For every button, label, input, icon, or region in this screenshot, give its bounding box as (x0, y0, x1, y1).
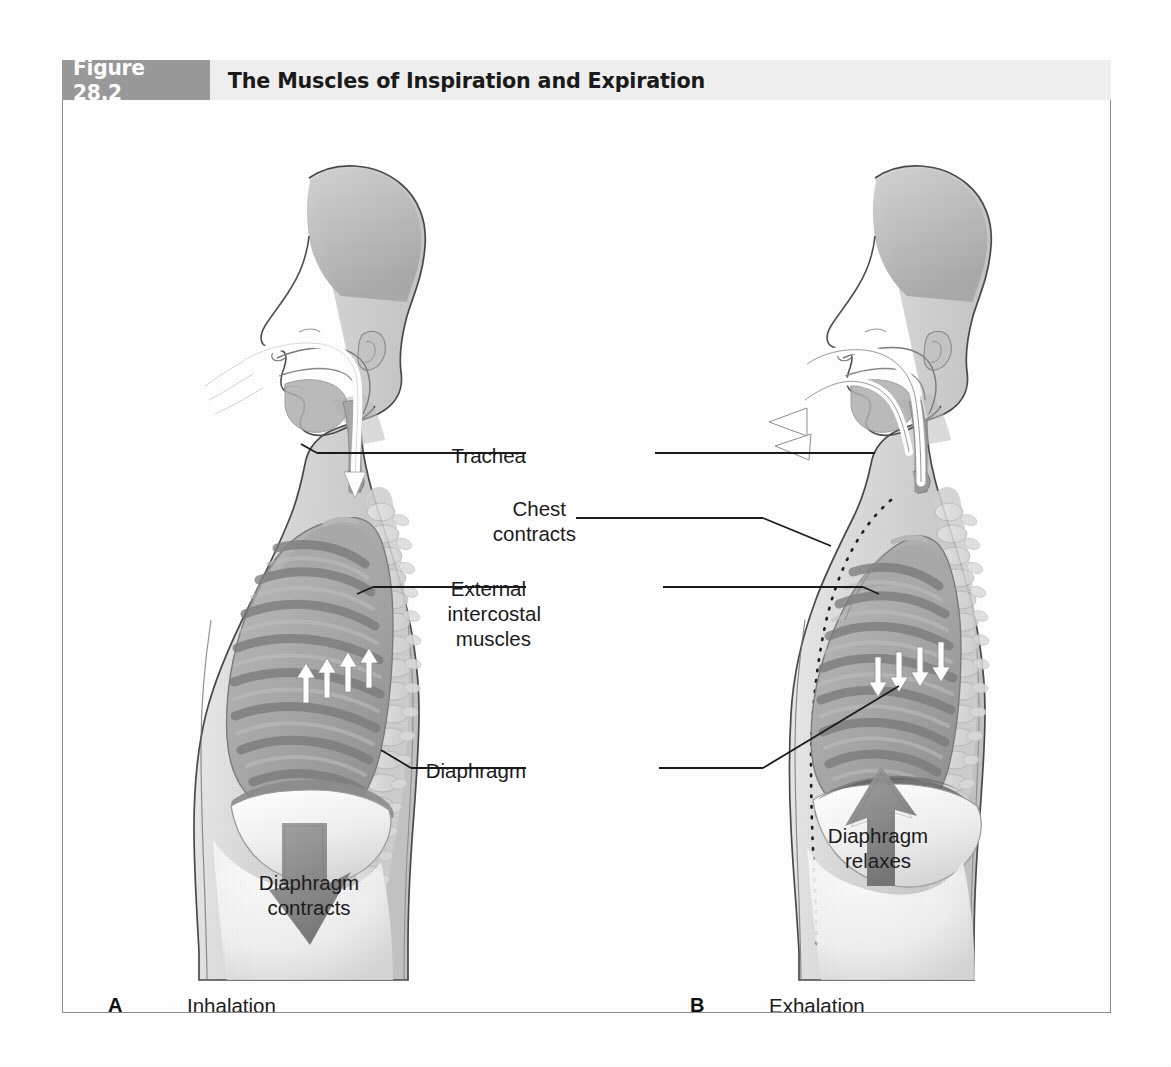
figure-header: Figure 28.2 The Muscles of Inspiration a… (62, 60, 1111, 100)
label-chest-contracts-line1: Chest (396, 496, 566, 521)
figure-title-box: The Muscles of Inspiration and Expiratio… (210, 60, 1111, 100)
label-external-intercostal-line1: External (366, 576, 526, 601)
figure-number-label: Figure 28.2 (62, 55, 198, 105)
label-trachea: Trachea (376, 443, 526, 468)
panel-b-letter: B (690, 994, 704, 1013)
panel-a-caption: Inhalation (187, 994, 276, 1013)
label-diaphragm-contracts-line2: contracts (189, 895, 429, 920)
label-diaphragm-relaxes-line2: relaxes (763, 848, 993, 873)
panel-a-inhalation-illustration (194, 166, 425, 980)
label-external-intercostal-line2: intercostal (366, 601, 541, 626)
leader-chest-contracts-b (763, 518, 831, 546)
figure-number-box: Figure 28.2 (62, 60, 210, 100)
panel-a-letter: A (108, 994, 122, 1013)
label-external-intercostal-line3: muscles (366, 626, 531, 651)
figure-28-2: Figure 28.2 The Muscles of Inspiration a… (62, 60, 1111, 1014)
label-diaphragm-relaxes-line1: Diaphragm (763, 823, 993, 848)
figure-body-frame: Trachea Chest contracts External interco… (62, 100, 1111, 1013)
label-diaphragm: Diaphragm (366, 758, 526, 783)
figure-title-label: The Muscles of Inspiration and Expiratio… (210, 68, 705, 93)
panel-b-caption: Exhalation (769, 994, 865, 1013)
label-diaphragm-contracts-line1: Diaphragm (189, 870, 429, 895)
label-chest-contracts-line2: contracts (396, 521, 576, 546)
